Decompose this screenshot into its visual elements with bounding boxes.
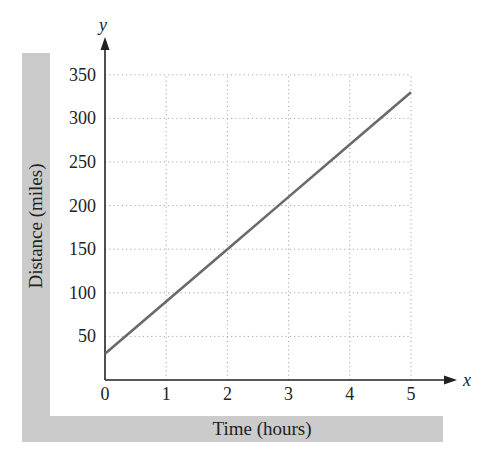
- chart-plot: y x 012345 50100150200250300350: [0, 0, 487, 454]
- x-tick-label: 3: [284, 384, 293, 404]
- y-tick-label: 150: [69, 239, 96, 259]
- grid: [105, 75, 411, 380]
- x-axis-name: x: [462, 370, 471, 390]
- y-axis-arrow-icon: [101, 37, 110, 50]
- x-tick-label: 5: [407, 384, 416, 404]
- x-tick-label: 1: [162, 384, 171, 404]
- x-axis-arrow-icon: [444, 376, 457, 385]
- y-tick-label: 200: [69, 196, 96, 216]
- y-tick-label: 300: [69, 108, 96, 128]
- y-tick-label: 100: [69, 283, 96, 303]
- y-tick-label: 250: [69, 152, 96, 172]
- x-tick-label: 0: [101, 384, 110, 404]
- y-tick-label: 50: [78, 326, 96, 346]
- y-tick-label: 350: [69, 65, 96, 85]
- data-line: [105, 92, 411, 354]
- y-tick-labels: 50100150200250300350: [69, 65, 96, 347]
- x-tick-labels: 012345: [101, 384, 416, 404]
- x-tick-label: 4: [345, 384, 354, 404]
- y-axis-name: y: [97, 15, 107, 35]
- x-tick-label: 2: [223, 384, 232, 404]
